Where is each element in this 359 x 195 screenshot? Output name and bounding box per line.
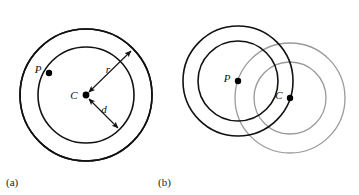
caption-a: (a) xyxy=(6,176,19,189)
radius-r-label: r xyxy=(106,63,111,75)
center-point-c-dot xyxy=(83,92,90,99)
panel-b: P C (b) xyxy=(158,26,345,189)
circle-diagram-svg: C P r d (a) P C (b) xyxy=(0,0,359,195)
point-p-label-b: P xyxy=(223,72,231,84)
point-p-dot xyxy=(46,70,52,76)
panel-a: C P r d (a) xyxy=(6,29,152,189)
point-c-dot-b xyxy=(287,95,293,101)
figure-root: C P r d (a) P C (b) xyxy=(0,0,359,195)
point-c-label-b: C xyxy=(275,89,283,101)
distance-d-label: d xyxy=(101,103,107,115)
caption-b: (b) xyxy=(158,176,171,189)
point-p-label: P xyxy=(34,63,42,75)
point-p-dot-b xyxy=(235,78,241,84)
center-point-c-label: C xyxy=(70,89,78,101)
